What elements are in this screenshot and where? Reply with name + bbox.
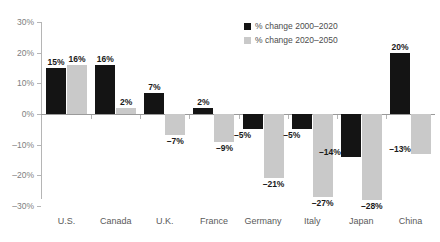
bar-italy-series1 bbox=[292, 114, 312, 129]
bar-value-label: 2% bbox=[108, 97, 144, 107]
x-axis-group-tick bbox=[239, 115, 240, 119]
y-axis-tick-label: 0% bbox=[0, 109, 34, 119]
x-axis-label-japan: Japan bbox=[337, 216, 386, 226]
x-axis-group-tick bbox=[140, 115, 141, 119]
y-axis-tick-mark bbox=[37, 53, 41, 54]
x-axis-group-tick bbox=[386, 115, 387, 119]
x-axis-label-germany: Germany bbox=[239, 216, 288, 226]
y-axis-tick-label: 20% bbox=[0, 48, 34, 58]
bar-us-series2 bbox=[67, 65, 87, 114]
bar-value-label: 2% bbox=[185, 97, 221, 107]
bar-uk-series2 bbox=[165, 114, 185, 135]
y-axis-tick-mark bbox=[37, 114, 41, 115]
legend-swatch-icon-light bbox=[244, 37, 251, 44]
bar-china-series2 bbox=[411, 114, 431, 154]
bar-chart: 30%20%10%0%–10%–20%–30% 15%16%16%2%7%–7%… bbox=[0, 0, 440, 242]
bar-value-label: 7% bbox=[136, 82, 172, 92]
legend-label-series-2: % change 2020–2050 bbox=[255, 35, 338, 45]
x-axis-label-uk: U.K. bbox=[140, 216, 189, 226]
legend-swatch-icon-dark bbox=[244, 23, 251, 30]
bar-germany-series1 bbox=[243, 114, 263, 129]
bar-germany-series2 bbox=[264, 114, 284, 178]
x-axis-group-tick bbox=[337, 115, 338, 119]
bar-value-label: –28% bbox=[354, 201, 390, 211]
bar-value-label: –13% bbox=[385, 144, 411, 154]
y-axis-tick-mark bbox=[37, 83, 41, 84]
bar-japan-series1 bbox=[341, 114, 361, 157]
y-axis-tick-mark bbox=[37, 145, 41, 146]
y-axis-tick-label: 30% bbox=[0, 17, 34, 27]
x-axis-group-tick bbox=[91, 115, 92, 119]
bar-value-label: –9% bbox=[206, 143, 242, 153]
y-axis-tick-label: –20% bbox=[0, 170, 34, 180]
legend-label-series-1: % change 2000–2020 bbox=[255, 21, 338, 31]
x-axis-label-italy: Italy bbox=[288, 216, 337, 226]
y-axis-tick-label: 10% bbox=[0, 78, 34, 88]
bar-china-series1 bbox=[390, 53, 410, 114]
legend-item-series-2: % change 2020–2050 bbox=[244, 34, 338, 46]
bar-uk-series1 bbox=[144, 93, 164, 114]
bar-france-series1 bbox=[193, 108, 213, 114]
x-axis-group-tick bbox=[288, 115, 289, 119]
x-axis-group-tick bbox=[189, 115, 190, 119]
bar-value-label: –5% bbox=[274, 130, 310, 140]
y-axis-tick-mark bbox=[37, 22, 41, 23]
bar-value-label: –7% bbox=[157, 136, 193, 146]
y-axis-tick-mark bbox=[37, 206, 41, 207]
bar-value-label: –27% bbox=[305, 198, 341, 208]
bar-value-label: –14% bbox=[317, 147, 341, 157]
y-axis-tick-label: –30% bbox=[0, 201, 34, 211]
bar-value-label: 20% bbox=[382, 42, 418, 52]
x-axis-label-us: U.S. bbox=[42, 216, 91, 226]
x-axis-label-china: China bbox=[386, 216, 435, 226]
bar-value-label: –21% bbox=[256, 179, 292, 189]
y-axis-line bbox=[41, 22, 42, 199]
bar-us-series1 bbox=[46, 68, 66, 114]
bar-japan-series2 bbox=[362, 114, 382, 200]
bar-value-label: –5% bbox=[225, 130, 261, 140]
y-axis-tick-mark bbox=[37, 175, 41, 176]
bar-canada-series2 bbox=[116, 108, 136, 114]
chart-legend: % change 2000–2020 % change 2020–2050 bbox=[244, 20, 338, 48]
y-axis-tick-label: –10% bbox=[0, 140, 34, 150]
x-axis-label-france: France bbox=[189, 216, 238, 226]
x-axis-label-canada: Canada bbox=[91, 216, 140, 226]
bar-value-label: 16% bbox=[87, 54, 123, 64]
legend-item-series-1: % change 2000–2020 bbox=[244, 20, 338, 32]
